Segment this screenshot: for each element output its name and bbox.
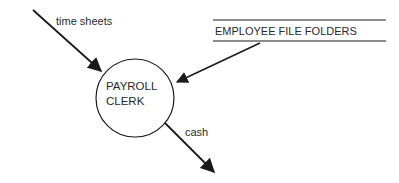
process-label-line1: PAYROLL xyxy=(106,80,158,92)
diagram-canvas: time sheets PAYROLL CLERK EMPLOYEE FILE … xyxy=(0,0,399,183)
process-label-line2: CLERK xyxy=(106,95,145,107)
flow-time-sheets: time sheets xyxy=(33,10,113,71)
process-payroll-clerk: PAYROLL CLERK xyxy=(96,59,174,137)
data-store-label: EMPLOYEE FILE FOLDERS xyxy=(215,25,357,37)
flow-label-time-sheets: time sheets xyxy=(56,15,113,27)
flow-label-cash: cash xyxy=(185,126,208,138)
flow-cash: cash xyxy=(165,123,214,172)
arrow-file-folders-to-clerk xyxy=(177,43,260,82)
data-store-employee-file-folders: EMPLOYEE FILE FOLDERS xyxy=(213,20,386,41)
